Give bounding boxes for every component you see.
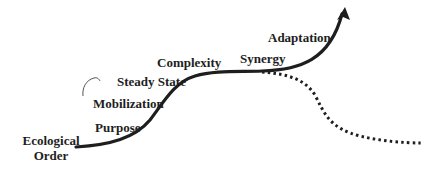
label-mobilization: Mobilization	[93, 96, 164, 111]
label-adaptation: Adaptation	[268, 30, 331, 45]
label-steady-state: Steady State	[117, 74, 186, 89]
squiggle-mark-icon	[83, 78, 100, 96]
label-synergy: Synergy	[240, 51, 286, 66]
label-complexity: Complexity	[157, 55, 221, 70]
label-purpose: Purpose	[95, 120, 141, 135]
arrow-head-icon	[337, 7, 350, 20]
label-ecological: Ecological	[18, 133, 84, 148]
label-ecological-order: Ecological Order	[18, 133, 84, 163]
label-order: Order	[18, 148, 84, 163]
dotted-decline-curve	[262, 72, 421, 143]
